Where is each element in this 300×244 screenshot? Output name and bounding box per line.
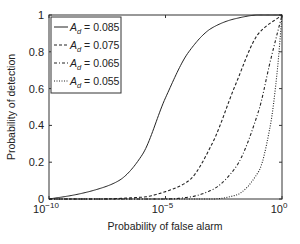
legend: Ad = 0.085Ad = 0.075Ad = 0.065Ad = 0.055 bbox=[51, 17, 121, 93]
roc-chart: 00.20.40.60.81 10−1010−5100 Ad = 0.085Ad… bbox=[0, 0, 300, 244]
y-tick-label: 0.4 bbox=[29, 119, 44, 131]
x-axis-label: Probability of false alarm bbox=[108, 220, 223, 232]
y-tick-label: 0.6 bbox=[29, 83, 44, 95]
y-tick-label: 0.8 bbox=[29, 46, 44, 58]
x-tick-label: 100 bbox=[271, 201, 288, 215]
y-tick-label: 0.2 bbox=[29, 156, 44, 168]
y-axis-label: Probability of detection bbox=[5, 54, 17, 160]
x-tick-label: 10−10 bbox=[33, 201, 59, 215]
y-tick-label: 1 bbox=[38, 9, 44, 21]
x-tick-label: 10−5 bbox=[152, 201, 174, 215]
